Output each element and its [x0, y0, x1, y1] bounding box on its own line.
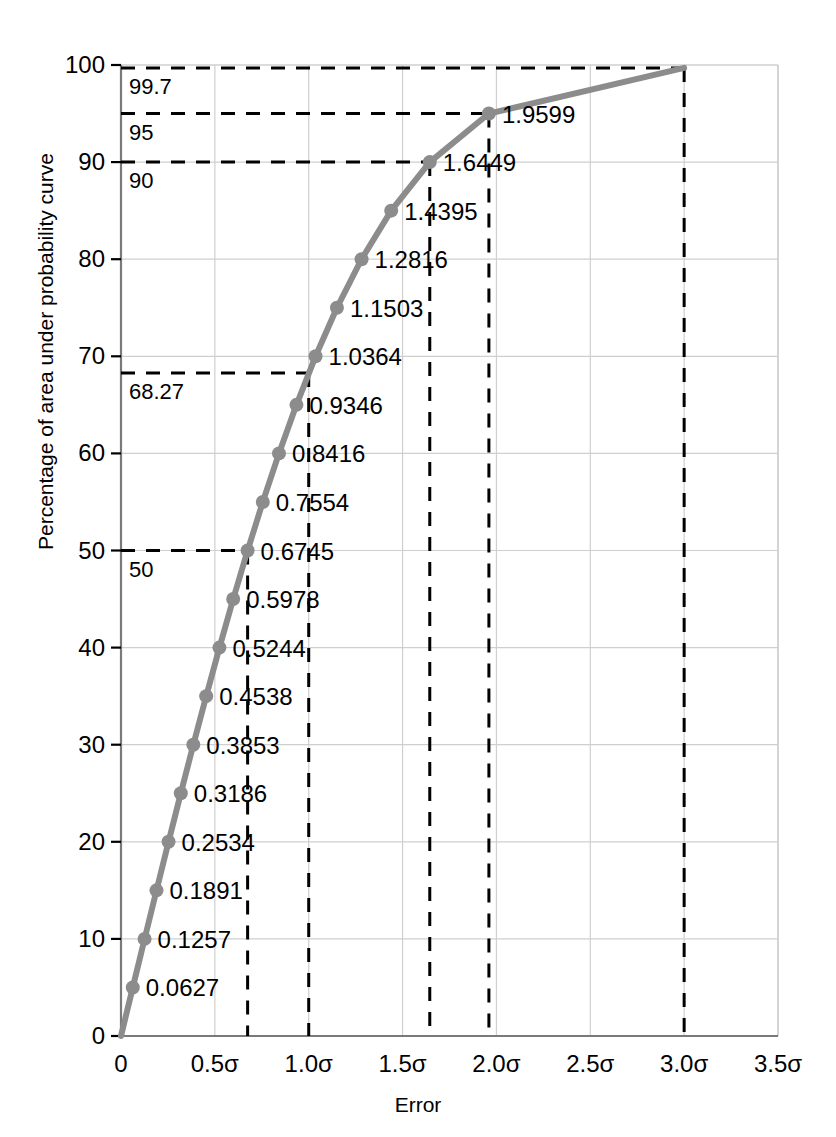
data-point-label: 0.0627 — [146, 974, 219, 1001]
data-point-label: 0.5978 — [246, 586, 319, 613]
data-point-marker — [330, 301, 344, 315]
y-axis-title: Percentage of area under probability cur… — [34, 153, 58, 550]
data-point-label: 0.5244 — [232, 635, 305, 662]
x-axis-tick-label: 2.0σ — [472, 1050, 520, 1077]
data-point-label: 0.9346 — [309, 392, 382, 419]
data-point-label: 1.6449 — [443, 149, 516, 176]
data-point-label: 1.2816 — [375, 246, 448, 273]
y-axis-tick-label: 10 — [78, 925, 105, 952]
data-point-marker — [226, 592, 240, 606]
data-point-marker — [384, 204, 398, 218]
y-axis-tick-label: 0 — [92, 1022, 105, 1049]
x-axis-tick-label: 1.5σ — [378, 1050, 426, 1077]
data-point-label: 1.1503 — [350, 295, 423, 322]
data-point-label: 0.7554 — [276, 489, 349, 516]
reference-line-label: 99.7 — [129, 74, 172, 99]
data-point-label: 1.0364 — [329, 343, 402, 370]
data-point-marker — [162, 835, 176, 849]
x-axis-tick-label: 2.5σ — [566, 1050, 614, 1077]
data-point-marker — [186, 738, 200, 752]
data-point-marker — [355, 252, 369, 266]
probability-curve-figure: 010203040506070809010000.5σ1.0σ1.5σ2.0σ2… — [0, 0, 836, 1137]
data-point-label: 1.4395 — [404, 198, 477, 225]
data-point-label: 0.3853 — [206, 732, 279, 759]
data-point-label: 0.3186 — [194, 780, 267, 807]
data-point-marker — [212, 641, 226, 655]
data-point-label: 1.9599 — [502, 101, 575, 128]
y-axis-tick-label: 30 — [78, 731, 105, 758]
data-point-marker — [423, 155, 437, 169]
data-point-label: 0.2534 — [182, 829, 255, 856]
data-point-label: 0.1891 — [169, 877, 242, 904]
data-point-marker — [138, 932, 152, 946]
y-axis-tick-label: 20 — [78, 828, 105, 855]
reference-line-label: 90 — [129, 168, 153, 193]
y-axis-tick-label: 40 — [78, 634, 105, 661]
data-point-marker — [272, 446, 286, 460]
chart-canvas: 010203040506070809010000.5σ1.0σ1.5σ2.0σ2… — [0, 0, 836, 1137]
x-axis-tick-label: 3.0σ — [660, 1050, 708, 1077]
data-point-marker — [289, 398, 303, 412]
data-point-marker — [309, 349, 323, 363]
reference-line-label: 50 — [129, 557, 153, 582]
x-axis-tick-label: 3.5σ — [754, 1050, 802, 1077]
x-axis-tick-label: 0 — [114, 1050, 127, 1077]
data-point-marker — [149, 883, 163, 897]
data-point-marker — [256, 495, 270, 509]
x-axis-title: Error — [0, 1093, 836, 1117]
data-point-marker — [241, 544, 255, 558]
x-axis-tick-label: 1.0σ — [285, 1050, 333, 1077]
y-axis-tick-label: 100 — [65, 51, 105, 78]
data-point-marker — [482, 107, 496, 121]
data-point-marker — [199, 689, 213, 703]
reference-line-label: 95 — [129, 120, 153, 145]
y-axis-tick-label: 70 — [78, 342, 105, 369]
data-point-label: 0.1257 — [158, 926, 231, 953]
y-axis-tick-label: 90 — [78, 148, 105, 175]
data-point-label: 0.6745 — [261, 538, 334, 565]
data-point-label: 0.4538 — [219, 683, 292, 710]
x-axis-tick-label: 0.5σ — [191, 1050, 239, 1077]
reference-line-label: 68.27 — [129, 379, 184, 404]
y-axis-tick-label: 60 — [78, 439, 105, 466]
data-point-marker — [174, 786, 188, 800]
data-point-label: 0.8416 — [292, 440, 365, 467]
y-axis-tick-label: 50 — [78, 537, 105, 564]
data-point-marker — [126, 980, 140, 994]
y-axis-tick-label: 80 — [78, 245, 105, 272]
